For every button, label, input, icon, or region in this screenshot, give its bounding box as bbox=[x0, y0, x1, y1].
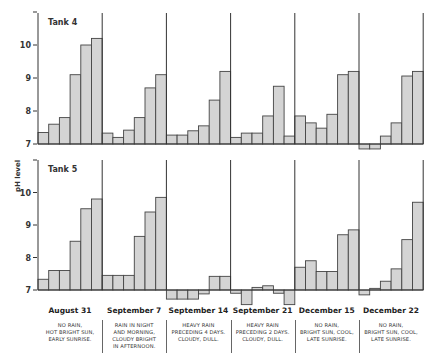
bar bbox=[273, 86, 284, 144]
weather-note: RAIN IN NIGHTAND MORNING,CLOUDY BRIGHTIN… bbox=[102, 322, 166, 350]
weather-note-line: IN AFTERNOON. bbox=[102, 343, 166, 350]
y-tick-label: 8 bbox=[25, 107, 31, 116]
bar bbox=[252, 133, 263, 144]
weather-note-line: NO RAIN, bbox=[295, 322, 359, 329]
bar bbox=[38, 132, 49, 144]
weather-note-line: BRIGHT SUN, COOL, bbox=[295, 329, 359, 336]
bar bbox=[316, 128, 327, 144]
bar bbox=[113, 137, 124, 144]
bar bbox=[263, 286, 274, 290]
bar bbox=[391, 123, 402, 144]
bar bbox=[81, 209, 92, 290]
weather-note: NO RAIN,BRIGHT SUN, COOL,LATE SUNRISE. bbox=[295, 322, 359, 343]
weather-note-line: PRECEDING 4 DAYS. bbox=[166, 329, 230, 336]
bar bbox=[59, 271, 70, 291]
bar bbox=[124, 275, 135, 290]
bar bbox=[166, 290, 177, 299]
bar bbox=[156, 197, 167, 290]
category-label: September 21 bbox=[231, 306, 295, 315]
bar bbox=[220, 276, 231, 290]
bar bbox=[70, 75, 81, 144]
note-divider bbox=[359, 320, 360, 353]
weather-note: NO RAIN,HOT BRIGHT SUN,EARLY SUNRISE. bbox=[38, 322, 102, 343]
panel-tank-4: 78910Tank 4 bbox=[20, 12, 423, 149]
bar bbox=[263, 116, 274, 144]
bar bbox=[102, 133, 113, 144]
y-tick-label: 8 bbox=[25, 254, 31, 263]
bar bbox=[177, 290, 188, 299]
bar bbox=[359, 290, 370, 295]
bar bbox=[166, 135, 177, 144]
y-tick-label: 10 bbox=[20, 41, 32, 50]
bar bbox=[306, 261, 317, 290]
weather-note: HEAVY RAINPRECEDING 4 DAYS.CLOUDY, DULL. bbox=[166, 322, 230, 343]
weather-note-line: HEAVY RAIN bbox=[166, 322, 230, 329]
bar bbox=[295, 116, 306, 144]
bar bbox=[156, 75, 167, 144]
weather-note-line: HEAVY RAIN bbox=[231, 322, 295, 329]
category-label: September 14 bbox=[166, 306, 230, 315]
y-axis-label: pH level bbox=[14, 160, 22, 192]
bar bbox=[220, 71, 231, 144]
bar bbox=[92, 38, 103, 144]
bar bbox=[241, 133, 252, 144]
bar bbox=[49, 271, 60, 291]
weather-note-line: NO RAIN, bbox=[359, 322, 423, 329]
weather-note-line: CLOUDY, DULL. bbox=[231, 336, 295, 343]
weather-note-line: HOT BRIGHT SUN, bbox=[38, 329, 102, 336]
note-divider bbox=[231, 320, 232, 353]
weather-note-line: RAIN IN NIGHT bbox=[102, 322, 166, 329]
bar bbox=[327, 271, 338, 290]
category-label: September 7 bbox=[102, 306, 166, 315]
bar bbox=[81, 45, 92, 144]
weather-note-line: BRIGHT SUN, COOL, bbox=[359, 329, 423, 336]
y-tick-label: 7 bbox=[25, 286, 31, 295]
bar bbox=[199, 290, 210, 294]
bar bbox=[348, 230, 359, 290]
bar bbox=[391, 269, 402, 290]
weather-note-line: AND MORNING, bbox=[102, 329, 166, 336]
bar bbox=[370, 144, 381, 149]
bar bbox=[359, 144, 370, 149]
note-divider bbox=[102, 320, 103, 353]
weather-note-line: NO RAIN, bbox=[38, 322, 102, 329]
bar bbox=[402, 240, 413, 290]
bar bbox=[38, 279, 49, 290]
panel-title: Tank 5 bbox=[48, 165, 78, 174]
bar bbox=[231, 137, 242, 144]
weather-note: NO RAIN,BRIGHT SUN, COOL,LATE SUNRISE. bbox=[359, 322, 423, 343]
category-label: December 22 bbox=[359, 306, 423, 315]
bar bbox=[348, 71, 359, 144]
bar bbox=[327, 114, 338, 144]
bar bbox=[177, 135, 188, 144]
bar bbox=[102, 275, 113, 290]
bar bbox=[70, 241, 81, 290]
bar bbox=[134, 236, 145, 290]
bar bbox=[380, 136, 391, 144]
bar bbox=[338, 235, 349, 290]
bar bbox=[188, 131, 199, 144]
bar bbox=[134, 118, 145, 144]
bar bbox=[316, 271, 327, 290]
bar bbox=[413, 202, 424, 290]
weather-note-line: CLOUDY, DULL. bbox=[166, 336, 230, 343]
bar bbox=[199, 126, 210, 144]
bar bbox=[209, 100, 220, 144]
panel-title: Tank 4 bbox=[48, 18, 78, 27]
bar bbox=[188, 290, 199, 299]
category-label: December 15 bbox=[295, 306, 359, 315]
bar bbox=[380, 281, 391, 290]
note-divider bbox=[295, 320, 296, 353]
y-tick-label: 9 bbox=[25, 74, 31, 83]
weather-note-line: EARLY SUNRISE. bbox=[38, 336, 102, 343]
y-tick-label: 7 bbox=[25, 140, 31, 149]
bar bbox=[284, 136, 295, 144]
bar bbox=[145, 88, 156, 144]
bar bbox=[402, 76, 413, 144]
note-divider bbox=[166, 320, 167, 353]
category-label: August 31 bbox=[38, 306, 102, 315]
bar bbox=[209, 276, 220, 290]
bar bbox=[145, 212, 156, 290]
bar bbox=[295, 267, 306, 290]
panel-tank-5: 78910Tank 5 bbox=[20, 160, 423, 305]
